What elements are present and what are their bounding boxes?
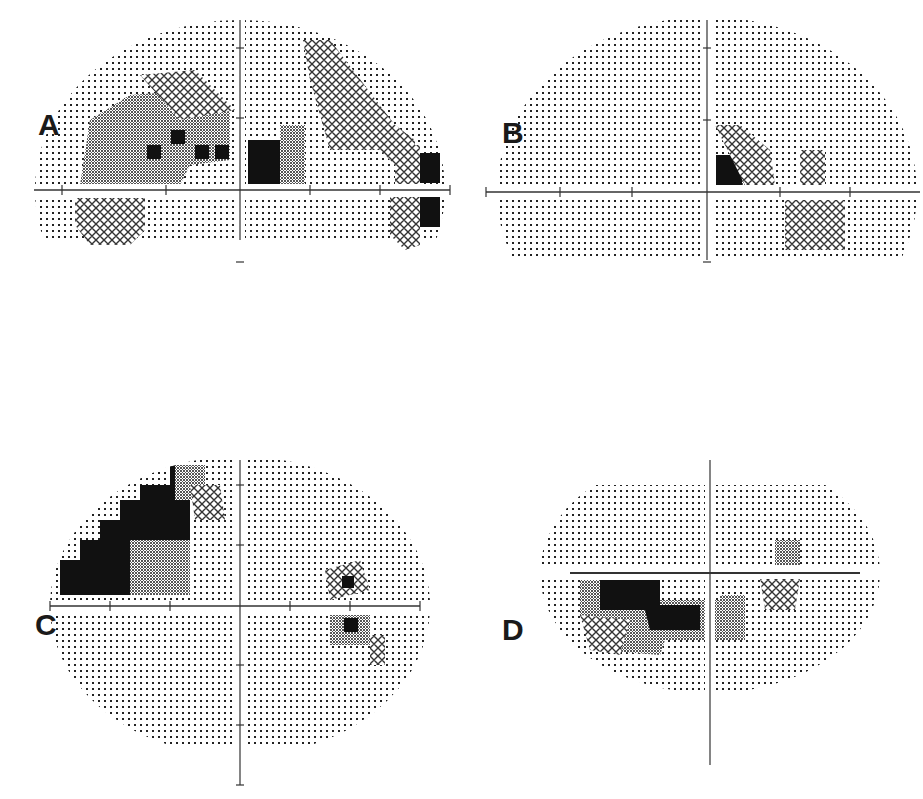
deep-defect-region	[720, 595, 745, 640]
normal-sensitivity-dots	[480, 20, 923, 260]
panel-c: C	[30, 440, 430, 799]
absolute-defect-region	[342, 576, 354, 588]
relative-defect-region	[390, 197, 420, 250]
visual-field-plot-c	[30, 440, 430, 799]
absolute-defect-region	[171, 130, 185, 144]
panel-label-d: D	[502, 615, 524, 645]
relative-defect-region	[75, 198, 145, 245]
absolute-defect-region	[215, 145, 229, 159]
relative-defect-region	[800, 150, 825, 185]
visual-field-plot-d	[480, 440, 923, 799]
deep-defect-region	[775, 540, 800, 565]
visual-field-plot-a	[20, 0, 450, 250]
relative-defect-region	[190, 485, 225, 520]
absolute-defect-region	[195, 145, 209, 159]
relative-defect-region	[395, 145, 420, 185]
absolute-defect-region	[344, 618, 358, 632]
panel-a: A	[20, 0, 450, 250]
panel-d: D	[480, 440, 923, 799]
deep-defect-region	[130, 540, 190, 595]
relative-defect-region	[370, 635, 385, 665]
panel-label-b: B	[502, 118, 524, 148]
panel-b: B	[480, 0, 923, 260]
absolute-defect-region	[418, 197, 440, 227]
absolute-defect-region	[147, 145, 161, 159]
visual-field-plot-b	[480, 0, 923, 260]
relative-defect-region	[760, 578, 800, 610]
relative-defect-region	[785, 200, 845, 250]
absolute-defect-region	[418, 153, 440, 183]
panel-label-c: C	[35, 610, 57, 640]
deep-defect-region	[280, 125, 305, 185]
panel-label-a: A	[38, 110, 60, 140]
